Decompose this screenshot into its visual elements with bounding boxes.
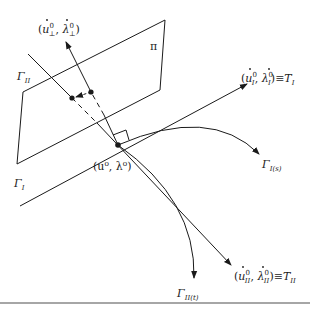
gamma-II-t-label: ΓII(t) (176, 287, 199, 302)
gamma-II-line-upper (28, 54, 72, 98)
projected-point (69, 95, 74, 100)
curve-gamma-I-s (118, 127, 259, 154)
gamma-II-line-dashed (72, 98, 97, 123)
diagram-canvas: π (u⁰, λ⁰) ΓII ΓI ΓI(s) ΓII(t) (u0⊥, λ0⊥… (0, 0, 310, 314)
svg-text:(u0⊥, λ0⊥): (u0⊥, λ0⊥) (38, 22, 80, 38)
gamma-II-label: ΓII (16, 70, 30, 85)
svg-text:(u0I, λ0I)≡TI: (u0I, λ0I)≡TI (241, 71, 295, 87)
perp-point (88, 89, 93, 94)
tangent-II-label: (u0II, λ0II)≡TII (234, 266, 296, 285)
perp-vector-dashed (91, 92, 104, 115)
perp-vector-label: (u0⊥, λ0⊥) (38, 19, 80, 38)
gamma-I-s-label: ΓI(s) (261, 158, 282, 173)
tangent-I-label: (u0I, λ0I)≡TI (241, 68, 295, 87)
svg-text:(u0II, λ0II)≡TII: (u0II, λ0II)≡TII (234, 269, 296, 285)
perp-vector-upper (66, 42, 91, 92)
bifurcation-point (115, 142, 121, 148)
point-label: (u⁰, λ⁰) (93, 160, 131, 173)
perp-vector-solid-lower (104, 115, 118, 145)
gamma-I-label: ΓI (13, 177, 25, 192)
plane-label: π (150, 40, 157, 53)
